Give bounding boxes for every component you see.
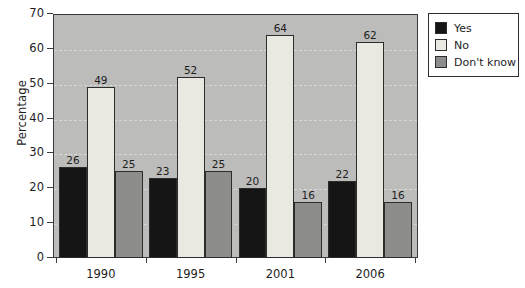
bar-group: 206416 (239, 14, 323, 258)
bar-group: 226216 (328, 14, 412, 258)
y-tick-label: 0 (37, 250, 44, 265)
bar-value-label: 25 (212, 158, 225, 170)
bar-value-label: 52 (184, 64, 197, 76)
x-axis-tick (146, 258, 147, 263)
bar-group: 235225 (149, 14, 233, 258)
bar-value-label: 23 (156, 165, 169, 177)
y-tick-label: 50 (29, 76, 44, 91)
bar-value-label: 22 (336, 168, 349, 180)
bar[interactable]: 26 (59, 167, 87, 258)
y-tick-label: 20 (29, 180, 44, 195)
x-axis-label: 2001 (266, 267, 295, 281)
bars-layer: 264925235225206416226216 (53, 14, 418, 258)
bar[interactable]: 62 (356, 42, 384, 258)
legend-swatch-icon (435, 56, 447, 68)
legend-label: Yes (454, 22, 472, 35)
x-axis-tick (325, 258, 326, 263)
x-axis-tick (236, 258, 237, 263)
bar[interactable]: 52 (177, 77, 205, 258)
bar-chart: Percentage 010203040506070 2649252352252… (0, 0, 525, 288)
bar-value-label: 16 (302, 189, 315, 201)
bar[interactable]: 49 (87, 87, 115, 258)
y-tick-label: 40 (29, 111, 44, 126)
x-axis-tick (415, 258, 416, 263)
x-axis-label: 1990 (86, 267, 115, 281)
bar-value-label: 62 (363, 29, 376, 41)
legend: YesNoDon't know (428, 13, 519, 77)
legend-swatch-icon (435, 22, 447, 34)
y-axis-ticks: 010203040506070 (5, 14, 53, 258)
x-axis-tick (56, 258, 57, 263)
bar[interactable]: 22 (328, 181, 356, 258)
bar[interactable]: 16 (384, 202, 412, 258)
legend-item[interactable]: Yes (435, 20, 513, 36)
bar-value-label: 25 (122, 158, 135, 170)
bar[interactable]: 25 (205, 171, 233, 258)
y-tick-label: 60 (29, 41, 44, 56)
bar[interactable]: 25 (115, 171, 143, 258)
bar-value-label: 26 (66, 154, 79, 166)
bar-value-label: 16 (391, 189, 404, 201)
y-tick-label: 30 (29, 145, 44, 160)
bar[interactable]: 20 (239, 188, 267, 258)
bar-value-label: 64 (274, 22, 287, 34)
legend-label: No (454, 39, 469, 52)
bar[interactable]: 23 (149, 178, 177, 258)
bar[interactable]: 16 (294, 202, 322, 258)
bar-value-label: 20 (246, 175, 259, 187)
x-axis: 1990199520012006 (53, 258, 418, 288)
bar-value-label: 49 (94, 74, 107, 86)
legend-swatch-icon (435, 39, 447, 51)
y-tick-label: 10 (29, 215, 44, 230)
legend-label: Don't know (454, 56, 516, 69)
x-axis-label: 2006 (355, 267, 384, 281)
legend-item[interactable]: Don't know (435, 54, 513, 70)
bar[interactable]: 64 (266, 35, 294, 258)
legend-item[interactable]: No (435, 37, 513, 53)
bar-group: 264925 (59, 14, 143, 258)
y-tick-label: 70 (29, 6, 44, 21)
x-axis-label: 1995 (176, 267, 205, 281)
